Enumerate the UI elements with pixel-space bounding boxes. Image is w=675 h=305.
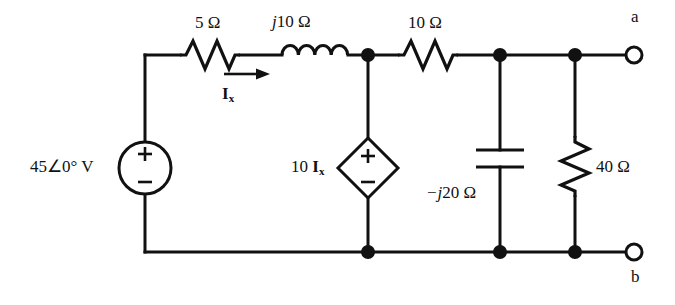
current-ix-arrow xyxy=(224,69,270,80)
label-cap-value: 20 Ω xyxy=(442,183,476,202)
node-dot-bottom-r40 xyxy=(568,245,582,259)
label-terminal-a: a xyxy=(631,8,639,25)
label-dep-gain: 10 xyxy=(291,157,312,176)
label-resistor-10-ohm: 10 Ω xyxy=(408,14,442,31)
node-dot-bottom-mid xyxy=(361,245,375,259)
label-dep-var: I xyxy=(312,157,319,176)
label-ix-name: I xyxy=(222,84,229,103)
circuit-canvas xyxy=(0,0,675,305)
label-inductor-j10-ohm: j10 Ω xyxy=(272,13,311,30)
label-ix-subscript: x xyxy=(229,92,235,104)
label-inductor-value: 10 Ω xyxy=(277,12,311,31)
label-resistor-40-ohm: 40 Ω xyxy=(596,158,630,175)
dependent-source-symbol xyxy=(338,55,398,252)
resistor-40-ohm-symbol xyxy=(561,55,589,252)
resistor-5-ohm-symbol xyxy=(180,41,240,69)
node-dot-top-mid xyxy=(361,48,375,62)
voltage-source-symbol xyxy=(119,142,171,194)
capacitor-j20-ohm-symbol xyxy=(476,55,524,252)
resistor-10-ohm-symbol xyxy=(398,41,458,69)
label-resistor-5-ohm: 5 Ω xyxy=(195,14,220,31)
terminal-a-circle[interactable] xyxy=(626,47,642,63)
circuit-diagram: 5 Ω j10 Ω 10 Ω Ix 45∠0° V 10 Ix −j20 Ω 4… xyxy=(0,0,675,305)
terminal-b-circle[interactable] xyxy=(626,244,642,260)
node-dot-top-r40 xyxy=(568,48,582,62)
label-cap-j-prefix: −j xyxy=(426,183,442,202)
label-dependent-source: 10 Ix xyxy=(291,158,324,177)
label-terminal-b: b xyxy=(631,268,640,285)
inductor-j10-ohm-symbol xyxy=(282,45,348,55)
node-dot-bottom-cap xyxy=(493,245,507,259)
label-current-ix: Ix xyxy=(222,85,234,104)
label-voltage-source: 45∠0° V xyxy=(30,158,94,175)
label-dep-subscript: x xyxy=(319,165,325,177)
node-dot-top-cap xyxy=(493,48,507,62)
label-capacitor-j20-ohm: −j20 Ω xyxy=(426,184,476,201)
